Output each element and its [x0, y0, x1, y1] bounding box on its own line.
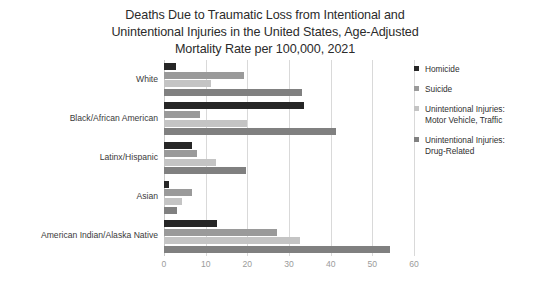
legend-item[interactable]: Unintentional Injuries: Drug-Related: [414, 135, 538, 157]
plot-area: [164, 60, 414, 256]
bar: [164, 111, 200, 118]
legend-label: Unintentional Injuries: Drug-Related: [425, 135, 505, 156]
bar: [164, 128, 336, 135]
bar: [164, 80, 211, 87]
bar-group: [164, 220, 414, 253]
bar: [164, 198, 182, 205]
y-axis-category-labels: WhiteBlack/African AmericanLatinx/Hispan…: [6, 60, 158, 256]
bar: [164, 229, 277, 236]
x-tick-label-60: 60: [399, 259, 429, 269]
x-tick-label-10: 10: [191, 259, 221, 269]
bar-group: [164, 63, 414, 96]
bar: [164, 167, 246, 174]
bar: [164, 189, 192, 196]
legend-label: Suicide: [425, 84, 452, 94]
bar: [164, 72, 244, 79]
legend-label: Homicide: [425, 64, 460, 74]
bar: [164, 220, 217, 227]
bar: [164, 120, 247, 127]
bar: [164, 207, 177, 214]
y-axis-label-4: American Indian/Alaska Native: [8, 230, 158, 240]
x-tick-label-0: 0: [149, 259, 179, 269]
legend-swatch-icon: [414, 106, 419, 111]
bar: [164, 89, 302, 96]
bar-group: [164, 181, 414, 214]
bar: [164, 246, 390, 253]
y-axis-label-2: Latinx/Hispanic: [8, 152, 158, 162]
chart-container: Deaths Due to Traumatic Loss from Intent…: [0, 0, 541, 290]
y-axis-label-1: Black/African American: [8, 113, 158, 123]
bar: [164, 150, 197, 157]
x-tick-label-40: 40: [316, 259, 346, 269]
x-tick-label-20: 20: [232, 259, 262, 269]
legend-item[interactable]: Suicide: [414, 84, 538, 95]
bar: [164, 159, 216, 166]
legend-item[interactable]: Homicide: [414, 64, 538, 75]
x-tick-label-30: 30: [274, 259, 304, 269]
chart-legend: HomicideSuicideUnintentional Injuries: M…: [414, 64, 538, 166]
bar: [164, 142, 192, 149]
bar: [164, 237, 300, 244]
legend-swatch-icon: [414, 66, 419, 71]
bar: [164, 181, 169, 188]
legend-label: Unintentional Injuries: Motor Vehicle, T…: [425, 104, 505, 125]
chart-title: Deaths Due to Traumatic Loss from Intent…: [55, 7, 475, 58]
bar-group: [164, 142, 414, 175]
legend-swatch-icon: [414, 137, 419, 142]
bar: [164, 102, 304, 109]
y-axis-label-0: White: [8, 74, 158, 84]
legend-item[interactable]: Unintentional Injuries: Motor Vehicle, T…: [414, 104, 538, 126]
bar: [164, 63, 176, 70]
y-axis-label-3: Asian: [8, 191, 158, 201]
legend-swatch-icon: [414, 86, 419, 91]
bar-group: [164, 102, 414, 135]
x-tick-label-50: 50: [357, 259, 387, 269]
x-axis-tick-labels: 0102030405060: [164, 259, 414, 275]
